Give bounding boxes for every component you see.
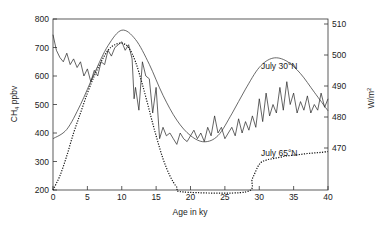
y-axis-title-left: CH4 ppbv (9, 85, 20, 122)
x-tick-label: 0 (51, 192, 56, 202)
right-tick-label: 500 (332, 50, 346, 60)
left-tick-label: 400 (35, 128, 49, 138)
left-tick-label: 500 (35, 100, 49, 110)
left-tick-label: 300 (35, 157, 49, 167)
left-tick-label: 700 (35, 43, 49, 53)
x-tick-label: 10 (117, 192, 127, 202)
right-tick-label: 480 (332, 112, 346, 122)
left-axis: 200300400500600700800 (35, 14, 57, 195)
right-tick-label: 470 (332, 143, 346, 153)
series-ch4 (53, 35, 328, 145)
series-july30-insolation (53, 30, 328, 142)
right-tick-label: 510 (332, 19, 346, 29)
annotation-july30: July 30°N (261, 61, 297, 71)
right-tick-label: 490 (332, 81, 346, 91)
x-tick-label: 15 (151, 192, 161, 202)
annotation-july65: July 65°N (261, 148, 297, 158)
plot-frame (53, 19, 328, 190)
x-axis-title: Age in ky (173, 207, 209, 217)
left-tick-label: 800 (35, 14, 49, 24)
x-tick-label: 40 (323, 192, 333, 202)
left-tick-label: 200 (35, 185, 49, 195)
x-tick-label: 35 (289, 192, 299, 202)
left-tick-label: 600 (35, 71, 49, 81)
x-tick-label: 30 (255, 192, 265, 202)
chart: 200300400500600700800 470480490500510 05… (0, 0, 382, 226)
right-axis: 470480490500510 (324, 19, 346, 153)
x-axis: 0510152025303540 (51, 186, 333, 202)
y-axis-title-right: W/m2 (366, 87, 376, 108)
x-tick-label: 20 (186, 192, 196, 202)
x-tick-label: 5 (85, 192, 90, 202)
